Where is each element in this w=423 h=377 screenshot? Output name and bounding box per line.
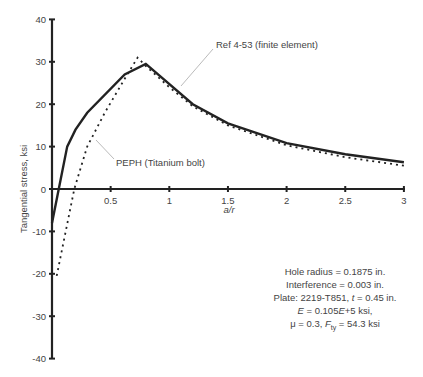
y-tick-label: -30 xyxy=(32,311,46,322)
y-tick-label: -20 xyxy=(32,268,46,279)
y-tick-label: 0 xyxy=(41,184,46,195)
callout-label-peph: PEPH (Titanium bolt) xyxy=(116,157,205,168)
y-tick-label: 10 xyxy=(35,141,46,152)
note-plate-text: Plate: 2219-T851, xyxy=(274,292,352,303)
y-axis-title: Tangential stress, ksi xyxy=(18,145,29,233)
note-modulus-mid: = 0.105 xyxy=(304,305,339,316)
note-line-interference: Interference = 0.003 in. xyxy=(250,278,420,291)
x-tick-label: 2 xyxy=(284,195,289,206)
note-yield-value: = 54.3 ksi xyxy=(336,318,380,329)
note-line-plate: Plate: 2219-T851, t = 0.45 in. xyxy=(250,291,420,304)
x-tick-label: 0.5 xyxy=(104,195,117,206)
y-tick-label: 20 xyxy=(35,99,46,110)
y-tick-label: -40 xyxy=(32,353,46,364)
note-line-poisson-yield: μ = 0.3, Fty = 54.3 ksi xyxy=(250,317,420,334)
callout-label-fe: Ref 4-53 (finite element) xyxy=(216,39,318,50)
y-tick-label: -10 xyxy=(32,226,46,237)
y-tick-label: 30 xyxy=(35,56,46,67)
x-tick-label: 3 xyxy=(401,195,406,206)
note-poisson: μ = 0.3, xyxy=(290,318,325,329)
x-tick-label: 1 xyxy=(167,195,172,206)
callout-leader-peph xyxy=(96,140,114,159)
callout-leader-fe xyxy=(181,49,213,86)
note-line-hole-radius: Hole radius = 0.1875 in. xyxy=(250,265,420,278)
y-tick-label: 40 xyxy=(35,14,46,25)
note-thickness-value: = 0.45 in. xyxy=(354,292,396,303)
parameters-note: Hole radius = 0.1875 in. Interference = … xyxy=(250,265,420,334)
x-tick-label: 2.5 xyxy=(339,195,352,206)
x-axis-title: a/r xyxy=(223,204,235,215)
note-modulus-suffix: +5 ksi, xyxy=(345,305,373,316)
note-line-modulus: E = 0.105E+5 ksi, xyxy=(250,304,420,317)
